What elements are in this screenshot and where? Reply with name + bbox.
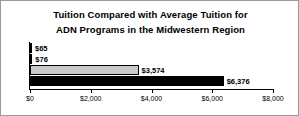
x-axis-tick-label: $2,000 (80, 95, 101, 102)
x-axis-tick-label: $0 (26, 95, 34, 102)
bar-4 (30, 76, 224, 86)
x-axis-tick (152, 90, 153, 93)
chart-title-line-1: Tuition Compared with Average Tuition fo… (1, 7, 299, 22)
bar-chart-figure: Tuition Compared with Average Tuition fo… (0, 0, 299, 116)
x-axis-tick-label: $8,000 (262, 95, 283, 102)
bar-1-value-label: $65 (32, 44, 48, 53)
bar-2-value-label: $76 (32, 55, 48, 64)
chart-title-line-2: ADN Programs in the Midwestern Region (1, 22, 299, 37)
x-axis-tick-label: $4,000 (141, 95, 162, 102)
chart-title: Tuition Compared with Average Tuition fo… (1, 7, 299, 37)
x-axis-tick-label: $6,000 (202, 95, 223, 102)
plot-area: $65 $76 $3,574 $6,376 (30, 43, 273, 89)
bar-3 (30, 65, 139, 75)
x-axis-tick (91, 90, 92, 93)
x-axis-tick (30, 90, 31, 93)
x-axis-tick (212, 90, 213, 93)
x-axis-tick (273, 90, 274, 93)
bar-3-value-label: $3,574 (139, 66, 165, 75)
bar-4-value-label: $6,376 (224, 77, 250, 86)
